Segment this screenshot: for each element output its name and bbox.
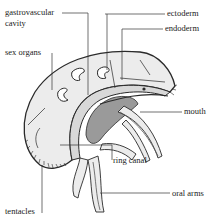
- label-gastrovascular-cavity-line2: cavity: [5, 19, 26, 28]
- label-endoderm: endoderm: [165, 24, 199, 33]
- label-ring-canal: ring canal: [113, 156, 147, 165]
- label-mouth: mouth: [184, 107, 206, 116]
- label-oral-arms: oral arms: [172, 189, 204, 198]
- label-gastrovascular-cavity: gastrovascular: [5, 8, 54, 17]
- label-sex-organs: sex organs: [5, 48, 41, 57]
- label-tentacles: tentacles: [5, 207, 35, 216]
- label-ectoderm: ectoderm: [167, 9, 199, 18]
